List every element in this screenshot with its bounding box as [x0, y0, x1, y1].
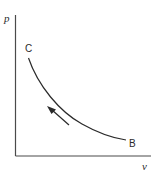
point-label-b: B	[129, 138, 136, 149]
process-curve	[29, 58, 127, 140]
y-axis-label: p	[3, 12, 10, 24]
x-axis-label: v	[142, 160, 147, 172]
pv-diagram: p v C B	[0, 0, 158, 175]
arrow-icon	[47, 106, 69, 125]
point-label-c: C	[25, 43, 32, 54]
